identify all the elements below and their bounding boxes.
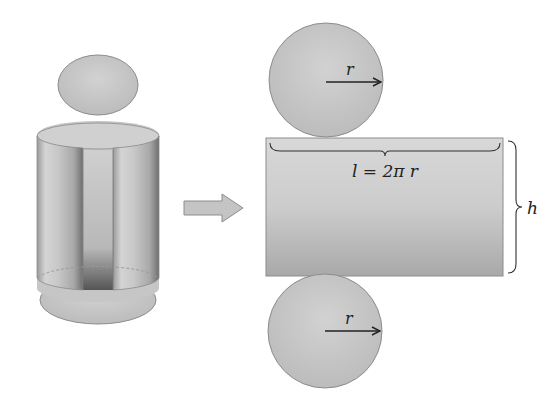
cylinder-illustration xyxy=(37,55,159,324)
length-label: l = 2π r xyxy=(352,161,419,181)
lateral-rectangle xyxy=(266,138,503,276)
cylinder-net-diagram: r l = 2π r h r xyxy=(0,0,560,405)
top-lid xyxy=(58,55,138,115)
cylinder-outer-wall-right xyxy=(113,136,159,290)
height-label: h xyxy=(527,198,538,218)
height-brace xyxy=(508,141,522,273)
top-circle xyxy=(269,23,383,137)
cylinder-net: r l = 2π r h r xyxy=(266,23,538,388)
cylinder-slit xyxy=(83,150,113,290)
transform-arrow-icon xyxy=(184,194,243,222)
cylinder-outer-wall xyxy=(37,136,83,290)
top-radius-label: r xyxy=(346,60,355,79)
bottom-radius-label: r xyxy=(345,309,354,328)
